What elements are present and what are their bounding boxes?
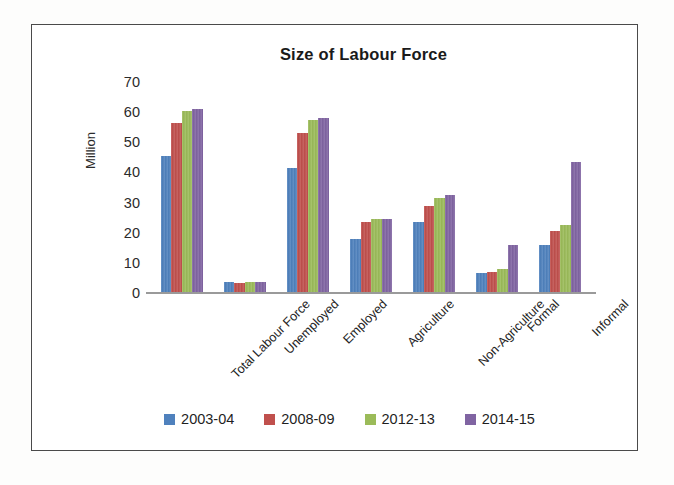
bar <box>550 231 561 293</box>
bar <box>350 239 361 293</box>
y-axis-tick-labels: 706050403020100 <box>94 82 140 293</box>
x-axis-category-label: Agriculture <box>405 297 457 349</box>
bar <box>539 245 550 293</box>
y-axis-tick: 30 <box>94 195 140 211</box>
bar <box>434 198 445 293</box>
bar-group <box>413 82 455 293</box>
bar <box>171 123 182 293</box>
plot-area <box>150 82 592 293</box>
x-axis-category-label: Employed <box>340 297 390 347</box>
bar <box>413 222 424 293</box>
y-axis-tick: 50 <box>94 134 140 150</box>
bar <box>161 156 172 293</box>
chart-title: Size of Labour Force <box>32 45 637 64</box>
legend-label: 2008-09 <box>281 411 334 427</box>
bar <box>308 120 319 293</box>
bar <box>476 273 487 293</box>
bar <box>571 162 582 293</box>
y-axis-tick: 0 <box>94 285 140 301</box>
bar <box>445 195 456 293</box>
bar-group <box>539 82 581 293</box>
bar-group <box>287 82 329 293</box>
legend-label: 2012-13 <box>382 411 435 427</box>
bar-group <box>224 82 266 293</box>
bar <box>382 219 393 293</box>
legend-item: 2012-13 <box>365 411 435 427</box>
legend-label: 2014-15 <box>482 411 535 427</box>
legend-label: 2003-04 <box>181 411 234 427</box>
chart-legend: 2003-042008-092012-132014-15 <box>32 411 637 427</box>
legend-swatch <box>264 414 275 425</box>
bar-group <box>350 82 392 293</box>
bar <box>287 168 298 293</box>
chart-frame: Size of Labour Force Million 70605040302… <box>31 24 638 451</box>
bar-group <box>161 82 203 293</box>
legend-swatch <box>465 414 476 425</box>
scanned-page: Size of Labour Force Million 70605040302… <box>0 0 674 485</box>
y-axis-tick: 70 <box>94 74 140 90</box>
bar <box>318 118 329 293</box>
legend-item: 2014-15 <box>465 411 535 427</box>
x-axis-line <box>146 292 596 294</box>
y-axis-tick: 20 <box>94 225 140 241</box>
bar <box>560 225 571 293</box>
bar <box>182 111 193 293</box>
bar <box>487 272 498 293</box>
x-axis-category-label: Non-Agriculture <box>476 297 548 369</box>
bar <box>497 269 508 293</box>
bar <box>508 245 519 293</box>
legend-item: 2003-04 <box>164 411 234 427</box>
y-axis-tick: 60 <box>94 104 140 120</box>
bar <box>192 109 203 293</box>
bar-group <box>476 82 518 293</box>
legend-item: 2008-09 <box>264 411 334 427</box>
y-axis-tick: 40 <box>94 164 140 180</box>
x-axis-category-label: Informal <box>590 297 632 339</box>
bar <box>297 133 308 293</box>
y-axis-tick: 10 <box>94 255 140 271</box>
bar <box>361 222 372 293</box>
bar <box>371 219 382 293</box>
bar <box>424 206 435 293</box>
legend-swatch <box>164 414 175 425</box>
legend-swatch <box>365 414 376 425</box>
